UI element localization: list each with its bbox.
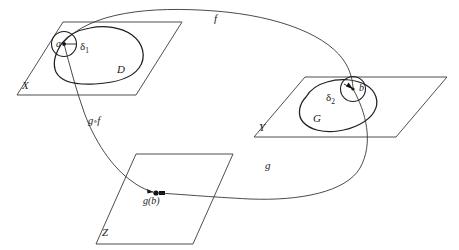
- math-diagram-canvas: X Y Z D G a b g(b) δ1 δ2 f g g∘f: [0, 0, 459, 250]
- delta1-label: δ1: [80, 41, 89, 55]
- gof-f-symbol: f: [97, 115, 100, 126]
- point-label-gb: g(b): [143, 196, 160, 206]
- delta2-label: δ2: [326, 92, 335, 106]
- map-g-curve: [157, 89, 367, 199]
- region-label-d: D: [117, 64, 125, 75]
- map-gof-curve: [64, 44, 156, 193]
- plane-label-x: X: [22, 80, 29, 91]
- point-label-a: a: [56, 39, 61, 49]
- delta1-subscript: 1: [85, 46, 89, 55]
- point-label-b: b: [359, 83, 364, 93]
- map-label-g: g: [265, 160, 271, 171]
- map-label-f: f: [214, 13, 217, 24]
- region-label-g: G: [313, 113, 321, 124]
- delta2-subscript: 2: [331, 97, 335, 106]
- map-label-gof: g∘f: [88, 116, 100, 127]
- diagram-vector-layer: [0, 0, 459, 250]
- plane-label-y: Y: [259, 122, 265, 133]
- plane-label-z: Z: [102, 227, 108, 238]
